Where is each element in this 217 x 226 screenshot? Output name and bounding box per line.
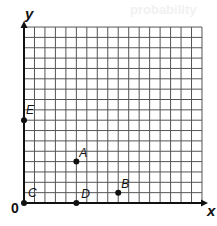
point-c-dot <box>21 200 27 206</box>
coordinate-grid: x y 0 ABCDE <box>0 0 217 226</box>
point-d-dot <box>73 200 79 206</box>
point-b-label: B <box>121 177 129 191</box>
x-axis-label: x <box>206 202 216 219</box>
point-a-label: A <box>78 146 87 160</box>
point-d-label: D <box>81 187 90 201</box>
y-axis-label: y <box>24 5 34 22</box>
point-c-label: C <box>28 186 37 200</box>
point-e-dot <box>21 117 27 123</box>
origin-label: 0 <box>11 200 19 216</box>
points: ABCDE <box>21 103 129 206</box>
point-e-label: E <box>26 103 35 117</box>
grid-lines <box>24 27 202 203</box>
y-axis-arrow-icon <box>21 21 28 28</box>
